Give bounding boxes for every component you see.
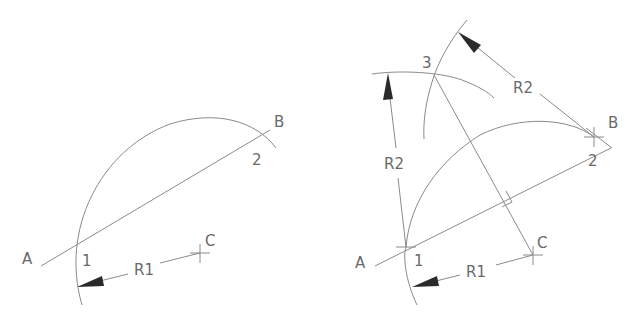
arc-r1 — [76, 118, 276, 305]
label-b: B — [274, 113, 284, 131]
label-point-3: 3 — [422, 54, 432, 72]
label-r2-left: R2 — [384, 155, 404, 173]
dim-r1-line-left — [100, 274, 128, 281]
label-point-1: 1 — [82, 252, 92, 270]
line-ab — [375, 148, 611, 266]
dim-r2-left-line-lower — [398, 178, 406, 247]
dim-r2-right-line-lower — [540, 94, 594, 137]
dim-r2-right-arrowhead — [458, 32, 481, 53]
label-r1: R1 — [466, 263, 486, 281]
label-point-1: 1 — [414, 252, 424, 270]
label-r1: R1 — [134, 261, 154, 279]
label-a: A — [22, 250, 33, 268]
geometry-construction-canvas: A B C 1 2 R1 — [0, 0, 638, 326]
diagram-step-1: A B C 1 2 R1 — [22, 113, 284, 305]
label-c: C — [537, 234, 547, 252]
dim-r1-arrowhead — [412, 276, 439, 287]
arc-r1 — [405, 121, 594, 305]
label-c: C — [205, 232, 215, 250]
label-a: A — [355, 254, 366, 272]
dim-r2-left-arrowhead — [383, 73, 393, 100]
label-point-2: 2 — [588, 152, 598, 170]
dim-r1-line-right — [160, 253, 200, 263]
dim-r1-line-right — [496, 255, 533, 265]
line-ab — [41, 130, 270, 266]
right-angle-marker — [502, 191, 512, 207]
diagram-step-2: A B C 1 2 3 R1 R2 R2 — [355, 20, 618, 305]
dim-r2-right-line-upper — [478, 48, 515, 78]
label-r2-right: R2 — [513, 79, 533, 97]
label-point-2: 2 — [252, 151, 262, 169]
dim-r2-left-line-upper — [390, 98, 396, 148]
dim-r1-line-left — [436, 275, 460, 281]
dim-r1-arrowhead — [77, 276, 104, 287]
perpendicular-line-3-c — [434, 75, 533, 255]
label-b: B — [608, 114, 618, 132]
